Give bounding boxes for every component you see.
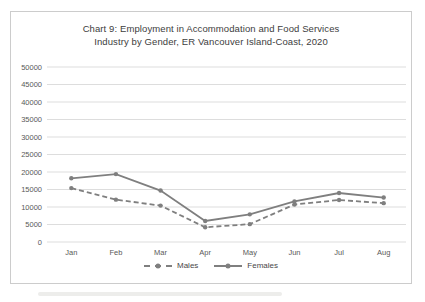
y-axis-tick-label: 40000 — [21, 98, 42, 107]
legend-item-females: Females — [214, 261, 278, 270]
legend-label-males: Males — [177, 261, 198, 270]
y-axis-tick-label: 0 — [38, 238, 42, 247]
y-axis-tick-label: 35000 — [21, 115, 42, 124]
data-point-marker-males — [158, 203, 162, 207]
y-axis-tick-label: 30000 — [21, 133, 42, 142]
x-axis-tick-label: Jul — [334, 248, 344, 257]
data-point-marker-females — [381, 195, 385, 199]
y-axis-tick-label: 10000 — [21, 203, 42, 212]
data-point-marker-females — [203, 219, 207, 223]
scan-artifact-smudge — [38, 292, 282, 296]
x-axis-tick-label: Feb — [109, 248, 122, 257]
x-axis-tick-label: Jan — [65, 248, 77, 257]
data-point-marker-females — [248, 212, 252, 216]
data-point-marker-males — [69, 186, 73, 190]
line-chart-plot-area: 0500010000150002000025000300003500040000… — [11, 12, 413, 284]
y-axis-tick-label: 45000 — [21, 80, 42, 89]
males-marker-dot — [155, 263, 160, 268]
y-axis-tick-label: 25000 — [21, 150, 42, 159]
y-axis-tick-label: 15000 — [21, 185, 42, 194]
data-point-marker-males — [381, 201, 385, 205]
data-point-marker-males — [114, 197, 118, 201]
females-solid-line-swatch — [214, 265, 242, 267]
data-point-marker-males — [337, 198, 341, 202]
legend-item-males: Males — [144, 261, 198, 270]
x-axis-tick-label: May — [243, 248, 257, 257]
series-line-females — [71, 174, 383, 221]
x-axis-tick-label: Aug — [377, 248, 390, 257]
data-point-marker-females — [158, 188, 162, 192]
x-axis-tick-label: Mar — [154, 248, 167, 257]
data-point-marker-females — [114, 172, 118, 176]
data-point-marker-females — [292, 199, 296, 203]
data-point-marker-females — [337, 191, 341, 195]
y-axis-tick-label: 50000 — [21, 63, 42, 72]
data-point-marker-males — [203, 225, 207, 229]
y-axis-tick-label: 20000 — [21, 168, 42, 177]
females-marker-dot — [226, 263, 231, 268]
x-axis-tick-label: Apr — [199, 248, 211, 257]
x-axis-tick-label: Jun — [288, 248, 300, 257]
males-dashed-line-swatch — [144, 265, 172, 267]
data-point-marker-males — [248, 222, 252, 226]
data-point-marker-females — [69, 176, 73, 180]
y-axis-tick-label: 5000 — [25, 220, 42, 229]
legend-label-females: Females — [247, 261, 278, 270]
chart-legend: Males Females — [11, 261, 411, 270]
chart-frame: Chart 9: Employment in Accommodation and… — [10, 11, 412, 284]
